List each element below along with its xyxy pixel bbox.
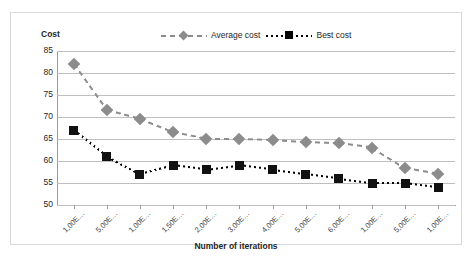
data-point-marker bbox=[102, 152, 111, 161]
data-point-marker bbox=[69, 126, 78, 135]
x-tick-label: 5,00E… bbox=[293, 209, 319, 235]
gridline bbox=[57, 73, 455, 74]
y-tick-label: 50 bbox=[27, 199, 53, 209]
y-tick-label: 60 bbox=[27, 155, 53, 165]
data-point-marker bbox=[202, 165, 211, 174]
data-point-marker bbox=[401, 179, 410, 188]
x-tick-label: 3,00E… bbox=[226, 209, 252, 235]
data-point-marker bbox=[135, 170, 144, 179]
x-tick-label: 1,00E… bbox=[425, 209, 451, 235]
y-axis-tick-labels: 5055606570758085 bbox=[27, 51, 53, 206]
y-tick-label: 75 bbox=[27, 89, 53, 99]
y-axis-title: Cost bbox=[41, 29, 60, 39]
x-axis-title: Number of iterations bbox=[11, 241, 461, 251]
data-point-marker bbox=[200, 133, 213, 146]
data-point-marker bbox=[169, 161, 178, 170]
x-tick-label: 2,00E… bbox=[193, 209, 219, 235]
legend-entry-average-cost: Average cost bbox=[161, 30, 260, 41]
chart-legend: Average cost Best cost bbox=[161, 27, 351, 43]
data-point-marker bbox=[432, 168, 445, 181]
x-tick-label: 1,00E… bbox=[60, 209, 86, 235]
data-point-marker bbox=[235, 161, 244, 170]
data-point-marker bbox=[299, 136, 312, 149]
series-line-segment bbox=[73, 64, 108, 111]
y-tick-label: 85 bbox=[27, 45, 53, 55]
x-tick-label: 1,00E… bbox=[359, 209, 385, 235]
data-point-marker bbox=[233, 133, 246, 146]
data-point-marker bbox=[301, 170, 310, 179]
x-tick-label: 5,00E… bbox=[94, 209, 120, 235]
legend-label-average-cost: Average cost bbox=[211, 30, 260, 40]
y-tick-label: 65 bbox=[27, 133, 53, 143]
data-point-marker bbox=[167, 126, 180, 139]
data-point-marker bbox=[399, 162, 412, 175]
data-point-marker bbox=[268, 165, 277, 174]
x-tick-label: 6,00E… bbox=[326, 209, 352, 235]
x-axis-tick-labels: 1,00E…5,00E…1,00E…1,50E…2,00E…3,00E…4,00… bbox=[57, 209, 455, 243]
y-tick-label: 70 bbox=[27, 111, 53, 121]
y-tick-label: 55 bbox=[27, 177, 53, 187]
data-point-marker bbox=[334, 174, 343, 183]
x-tick-label: 1,50E… bbox=[160, 209, 186, 235]
legend-label-best-cost: Best cost bbox=[316, 30, 351, 40]
legend-entry-best-cost: Best cost bbox=[266, 30, 351, 41]
gridline bbox=[57, 205, 455, 206]
data-point-marker bbox=[134, 113, 147, 126]
gridline bbox=[57, 95, 455, 96]
x-tick-label: 4,00E… bbox=[259, 209, 285, 235]
plot-area bbox=[57, 51, 455, 205]
data-point-marker bbox=[434, 183, 443, 192]
dashed-line-diamond-marker-icon bbox=[161, 30, 207, 41]
chart-frame: Average cost Best cost Cost 505560657075… bbox=[10, 12, 462, 245]
data-point-marker bbox=[368, 179, 377, 188]
x-tick-label: 5,00E… bbox=[392, 209, 418, 235]
y-tick-label: 80 bbox=[27, 67, 53, 77]
gridline bbox=[57, 51, 455, 52]
data-point-marker bbox=[266, 134, 279, 147]
dotted-line-square-marker-icon bbox=[266, 30, 312, 41]
gridline bbox=[57, 117, 455, 118]
x-tick-label: 1,00E… bbox=[127, 209, 153, 235]
